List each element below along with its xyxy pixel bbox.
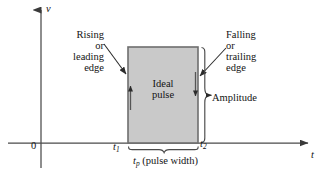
pulse-width-text: (pulse width) — [140, 155, 198, 166]
rising-edge-line-3: leading — [73, 51, 104, 62]
rising-edge-leader-line — [104, 44, 126, 74]
falling-edge-line-3: trailing — [226, 51, 256, 62]
falling-edge-line-2: or — [226, 40, 235, 51]
ideal-pulse-line-2: pulse — [152, 89, 174, 100]
origin-label: 0 — [31, 140, 36, 151]
ideal-pulse-figure: Risingorleadingedge Fallingortrailingedg… — [0, 0, 330, 173]
rising-edge-line-1: Rising — [77, 29, 104, 40]
t1-subscript: 1 — [116, 145, 120, 154]
falling-edge-leader-line — [200, 48, 226, 76]
ideal-pulse-label: Idealpulse — [128, 78, 198, 100]
v-axis-label: v — [46, 3, 51, 14]
falling-edge-line-4: edge — [226, 62, 246, 73]
amplitude-label: Amplitude — [212, 92, 257, 103]
t1-label: t1 — [113, 141, 120, 154]
pulse-width-brace — [129, 147, 199, 153]
rising-edge-line-2: or — [95, 40, 104, 51]
pulse-width-label: tp (pulse width) — [118, 155, 213, 168]
ideal-pulse-line-1: Ideal — [153, 78, 174, 89]
falling-edge-line-1: Falling — [226, 29, 256, 40]
rising-edge-label: Risingorleadingedge — [36, 29, 104, 74]
falling-edge-label: Fallingortrailingedge — [226, 29, 306, 74]
t2-subscript: 2 — [203, 142, 207, 151]
rising-edge-line-4: edge — [84, 62, 104, 73]
t-axis-label: t — [311, 149, 314, 160]
t2-label: t2 — [200, 138, 207, 151]
